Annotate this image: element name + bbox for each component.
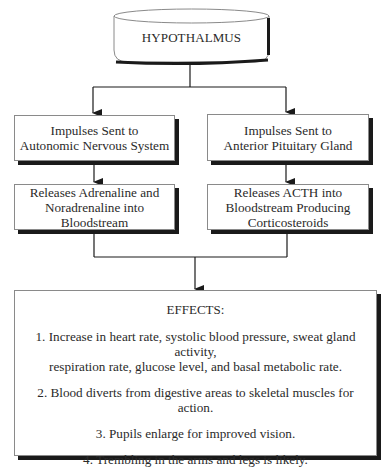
adrenaline-release-box: Releases Adrenaline and Noradrenaline in… (14, 184, 175, 230)
effect-item-1: 1. Increase in heart rate, systolic bloo… (15, 329, 376, 374)
effect-item-3: 3. Pupils enlarge for improved vision. (15, 426, 376, 441)
box-line: Releases Adrenaline and (19, 185, 170, 200)
acth-release-box: Releases ACTH into Bloodstream Producing… (207, 184, 369, 230)
effect-item-2: 2. Blood diverts from digestive areas to… (15, 385, 376, 415)
anterior-pituitary-box: Impulses Sent to Anterior Pituitary Glan… (207, 114, 369, 161)
box-line: Autonomic Nervous System (20, 138, 169, 153)
box-line: Anterior Pituitary Gland (224, 138, 353, 153)
autonomic-nervous-system-box: Impulses Sent to Autonomic Nervous Syste… (14, 115, 175, 161)
box-line: Corticosteroids (226, 215, 351, 230)
box-line: Impulses Sent to (224, 123, 353, 138)
effect-line: 1. Increase in heart rate, systolic bloo… (21, 329, 370, 359)
box-line: Releases ACTH into (226, 185, 351, 200)
box-line: Noradrenaline into Bloodstream (19, 200, 170, 230)
effect-line: respiration rate, glucose level, and bas… (21, 359, 370, 374)
effects-title: EFFECTS: (15, 302, 376, 318)
hypothalamus-label: HYPOTHALMUS (114, 30, 269, 46)
box-line: Bloodstream Producing (226, 200, 351, 215)
effects-box: EFFECTS: 1. Increase in heart rate, syst… (14, 290, 377, 456)
effect-item-4: 4. Trembling in the arms and legs is lik… (15, 452, 376, 467)
box-line: Impulses Sent to (20, 123, 169, 138)
